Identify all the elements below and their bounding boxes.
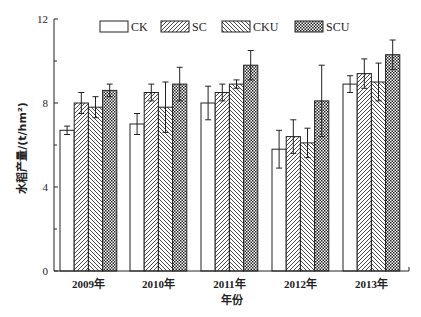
bar-ck <box>60 130 74 271</box>
y-axis-title: 水稻产量/(t/hm²) <box>15 102 29 193</box>
bar-sc <box>357 74 371 271</box>
bar-scu <box>386 55 400 271</box>
bar-ck <box>343 84 357 271</box>
legend-swatch <box>161 21 189 32</box>
bar-cku <box>88 107 102 271</box>
x-tick-label: 2012年 <box>284 277 317 290</box>
legend-item-scu: SCU <box>295 20 350 34</box>
x-tick-label: 2009年 <box>72 277 105 290</box>
x-axis-title: 年份 <box>221 293 244 307</box>
legend-label: CK <box>131 20 148 34</box>
legend-item-ck: CK <box>100 20 148 34</box>
bar-cku <box>229 84 243 271</box>
x-tick-label: 2011年 <box>213 277 245 290</box>
legend-swatch <box>100 21 128 32</box>
bar-sc <box>286 137 300 271</box>
bar-group <box>272 65 329 271</box>
bar-scu <box>173 84 187 271</box>
bar-scu <box>244 65 258 271</box>
legend-swatch <box>295 21 323 32</box>
figure-caption <box>70 309 370 317</box>
legend-label: SCU <box>326 20 350 34</box>
y-tick-label: 0 <box>43 265 49 277</box>
legend-label: SC <box>192 20 207 34</box>
bar-group <box>60 84 117 271</box>
legend-swatch <box>222 21 250 32</box>
bar-sc <box>144 93 158 272</box>
bar-ck <box>130 124 144 271</box>
y-tick-label: 8 <box>43 97 49 109</box>
bar-scu <box>103 90 117 271</box>
bar-group <box>201 51 258 272</box>
bar-cku <box>371 82 385 271</box>
bar-group <box>130 67 187 271</box>
plot-area <box>60 40 400 271</box>
legend-label: CKU <box>253 20 279 34</box>
y-tick-label: 4 <box>43 181 49 193</box>
bar-chart: 2009年2010年2011年2012年2013年04812水稻产量/(t/hm… <box>0 0 421 317</box>
bar-cku <box>300 143 314 271</box>
bar-ck <box>201 103 215 271</box>
x-tick-label: 2013年 <box>355 277 388 290</box>
bar-sc <box>215 93 229 272</box>
bar-group <box>343 40 400 271</box>
legend-item-sc: SC <box>161 20 207 34</box>
y-tick-label: 12 <box>37 13 48 25</box>
bar-sc <box>74 103 88 271</box>
x-tick-label: 2010年 <box>142 277 175 290</box>
legend: CKSCCKUSCU <box>100 20 350 34</box>
legend-item-cku: CKU <box>222 20 279 34</box>
